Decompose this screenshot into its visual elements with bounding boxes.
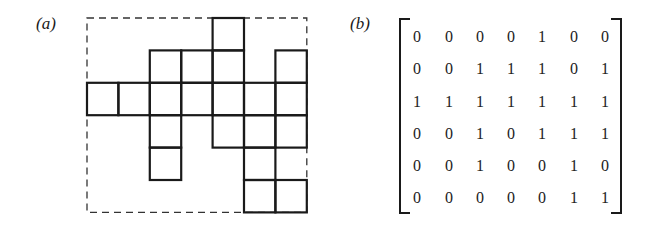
figure-canvas: 0000100001110111111110010111001001000000… [0,0,653,227]
matrix-entry: 0 [413,28,421,45]
grid-cell [244,83,275,115]
matrix-entry: 1 [538,125,546,142]
grid-cell [275,50,306,82]
matrix-entry: 1 [570,93,578,110]
matrix-entry: 0 [413,60,421,77]
matrix-entry: 0 [507,189,515,206]
grid-cell [118,83,149,115]
matrix-entry: 0 [507,125,515,142]
matrix-entry: 0 [445,125,453,142]
matrix-entry: 1 [476,157,484,174]
matrix-entry: 0 [601,28,609,45]
binary-matrix: 0000100001110111111110010111001001000000… [400,19,621,213]
matrix-entry: 0 [476,189,484,206]
matrix-entry: 1 [476,125,484,142]
grid-cell [150,148,181,180]
matrix-entry: 1 [601,60,609,77]
grid-cell [244,148,275,180]
matrix-entry: 1 [538,60,546,77]
matrix-entry: 1 [601,189,609,206]
grid-cell [213,50,244,82]
matrix-entry: 0 [413,189,421,206]
matrix-entry: 1 [413,93,421,110]
left-bracket [400,19,410,213]
matrix-entry: 1 [570,125,578,142]
matrix-entry: 0 [445,60,453,77]
grid-cell [275,115,306,147]
grid-cell [87,83,118,115]
grid-cell [213,115,244,147]
matrix-entry: 1 [507,60,515,77]
matrix-entry: 0 [570,28,578,45]
grid-cell [181,50,212,82]
matrix-entry: 0 [538,157,546,174]
grid-cell [181,83,212,115]
matrix-entry: 1 [445,93,453,110]
grid-cell [150,50,181,82]
matrix-entry: 0 [507,157,515,174]
matrix-entry: 1 [601,93,609,110]
matrix-entry: 0 [476,28,484,45]
binary-shape-grid [87,18,307,212]
matrix-entry: 0 [601,157,609,174]
grid-cell [213,83,244,115]
matrix-entry: 0 [507,28,515,45]
matrix-entry: 0 [413,125,421,142]
matrix-entry: 0 [570,60,578,77]
matrix-entry: 1 [601,125,609,142]
matrix-entry: 1 [476,93,484,110]
matrix-entry: 0 [445,157,453,174]
matrix-entry: 1 [507,93,515,110]
matrix-entry: 0 [445,28,453,45]
grid-cell [244,180,275,212]
matrix-entry: 1 [476,60,484,77]
matrix-entry: 1 [538,28,546,45]
grid-cell [244,115,275,147]
grid-cell [213,18,244,50]
grid-cell [275,180,306,212]
grid-cell [275,83,306,115]
grid-cell [150,115,181,147]
matrix-entry: 1 [570,189,578,206]
matrix-entry: 1 [538,93,546,110]
matrix-entry: 0 [413,157,421,174]
matrix-entry: 0 [538,189,546,206]
grid-cell [150,83,181,115]
right-bracket [611,19,621,213]
matrix-entry: 1 [570,157,578,174]
matrix-entry: 0 [445,189,453,206]
